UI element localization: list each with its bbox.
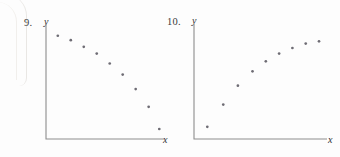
data-point bbox=[206, 125, 209, 128]
figure-9-scatter-svg bbox=[40, 18, 170, 146]
data-point bbox=[69, 39, 72, 42]
figure-10-plot-area bbox=[188, 18, 333, 146]
data-point bbox=[56, 34, 59, 37]
data-point bbox=[82, 46, 85, 49]
data-point bbox=[278, 52, 281, 55]
data-point bbox=[108, 62, 111, 65]
data-point bbox=[147, 105, 150, 108]
data-point bbox=[291, 47, 294, 50]
data-point bbox=[237, 84, 240, 87]
data-point bbox=[222, 103, 225, 106]
data-point bbox=[251, 70, 254, 73]
textbook-exercise-page: 9. y x 10. y x bbox=[0, 0, 340, 157]
data-point bbox=[95, 52, 98, 55]
figure-9-plot-area bbox=[40, 18, 170, 146]
data-point bbox=[121, 73, 124, 76]
figure-10-number: 10. bbox=[167, 16, 181, 27]
data-point bbox=[318, 40, 321, 43]
figure-9-axes bbox=[46, 24, 164, 139]
data-point bbox=[304, 42, 307, 45]
figure-10-axes bbox=[194, 24, 327, 139]
figure-10-data-points bbox=[206, 40, 320, 128]
data-point bbox=[264, 60, 267, 63]
data-point bbox=[134, 88, 137, 91]
figure-9: 9. y x bbox=[0, 0, 175, 157]
figure-10-scatter-svg bbox=[188, 18, 333, 146]
figure-10: 10. y x bbox=[160, 0, 340, 157]
figure-9-number: 9. bbox=[24, 17, 32, 28]
figure-9-data-points bbox=[56, 34, 160, 130]
